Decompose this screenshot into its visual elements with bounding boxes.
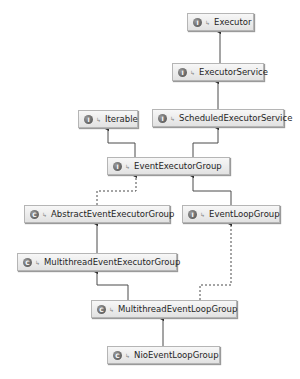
class-hierarchy-diagram: I↳ExecutorI↳ExecutorServiceI↳IterableI↳S…	[0, 0, 300, 379]
visibility-icon: ↳	[125, 163, 130, 170]
node-event-loop-group[interactable]: I↳EventLoopGroup	[182, 205, 280, 223]
visibility-icon: ↳	[190, 69, 195, 76]
node-event-executor-group[interactable]: I↳EventExecutorGroup	[107, 157, 230, 175]
node-label: ExecutorService	[199, 67, 268, 77]
node-label: Executor	[214, 17, 251, 27]
interface-icon: I	[178, 68, 187, 77]
node-label: EventLoopGroup	[209, 209, 280, 219]
edge-event-loop-group-to-event-executor-group	[193, 175, 231, 205]
node-label: Iterable	[105, 114, 138, 124]
node-multithread-event-loop-group[interactable]: C↳MultithreadEventLoopGroup	[91, 300, 237, 318]
edge-multithread-event-loop-group-to-event-loop-group	[200, 223, 231, 300]
node-iterable[interactable]: I↳Iterable	[78, 110, 138, 128]
visibility-icon: ↳	[109, 306, 114, 313]
class-icon: C	[30, 210, 39, 219]
node-label: MultithreadEventLoopGroup	[118, 304, 237, 314]
visibility-icon: ↳	[35, 259, 40, 266]
node-label: NioEventLoopGroup	[134, 350, 219, 360]
node-label: ScheduledExecutorService	[179, 113, 292, 123]
edge-event-executor-group-to-scheduled-executor-service	[193, 127, 218, 157]
class-icon: C	[113, 351, 122, 360]
node-label: EventExecutorGroup	[134, 161, 222, 171]
visibility-icon: ↳	[170, 115, 175, 122]
node-multithread-event-executor-group[interactable]: C↳MultithreadEventExecutorGroup	[17, 253, 177, 271]
interface-icon: I	[188, 210, 197, 219]
interface-icon: I	[113, 162, 122, 171]
visibility-icon: ↳	[96, 116, 101, 123]
class-icon: C	[97, 305, 106, 314]
node-scheduled-executor-service[interactable]: I↳ScheduledExecutorService	[152, 109, 284, 127]
visibility-icon: ↳	[205, 19, 210, 26]
edge-multithread-event-loop-group-to-multithread-event-executor-group	[97, 271, 128, 300]
edges-layer	[0, 0, 300, 379]
visibility-icon: ↳	[42, 211, 47, 218]
visibility-icon: ↳	[200, 211, 205, 218]
node-label: MultithreadEventExecutorGroup	[44, 257, 180, 267]
node-abstract-event-executor-group[interactable]: C↳AbstractEventExecutorGroup	[24, 205, 170, 223]
visibility-icon: ↳	[125, 352, 130, 359]
interface-icon: I	[158, 114, 167, 123]
node-executor[interactable]: I↳Executor	[187, 13, 254, 31]
interface-icon: I	[84, 115, 93, 124]
node-label: AbstractEventExecutorGroup	[51, 209, 174, 219]
edge-abstract-event-executor-group-to-event-executor-group	[97, 175, 136, 205]
edge-event-executor-group-to-iterable	[108, 128, 135, 157]
node-nio-event-loop-group[interactable]: C↳NioEventLoopGroup	[107, 346, 220, 364]
class-icon: C	[23, 258, 32, 267]
interface-icon: I	[193, 18, 202, 27]
node-executor-service[interactable]: I↳ExecutorService	[172, 63, 264, 81]
